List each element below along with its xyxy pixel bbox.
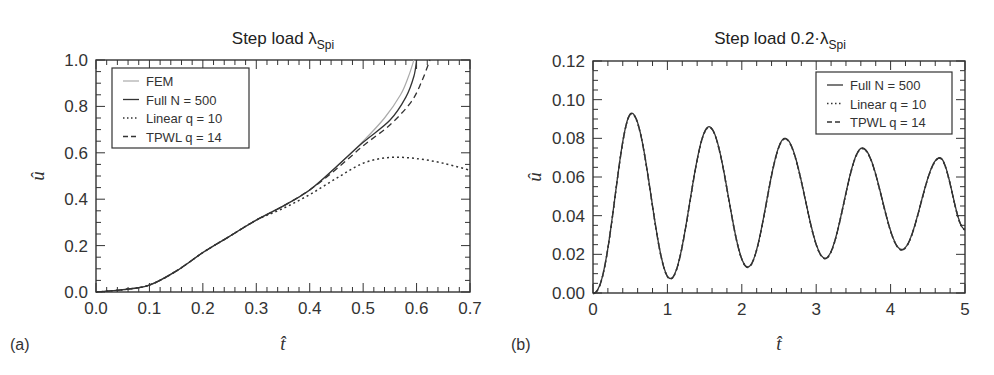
- legend: Full N = 500Linear q = 10TPWL q = 14: [816, 72, 952, 134]
- x-tick-label: 0.5: [351, 299, 375, 318]
- chart-panel-b: Step load 0.2·λSpi0123450.000.020.040.06…: [511, 29, 970, 354]
- y-tick-label: 0.06: [552, 168, 585, 187]
- x-tick-label: 0.2: [191, 299, 215, 318]
- x-axis-label: t̂: [776, 333, 783, 354]
- series-line: [593, 114, 965, 294]
- x-tick-label: 0.3: [244, 299, 268, 318]
- x-tick-label: 0.6: [405, 299, 429, 318]
- y-tick-label: 0.10: [552, 91, 585, 110]
- chart-panel-a: Step load λSpi0.00.10.20.30.40.50.60.70.…: [10, 29, 482, 354]
- y-tick-label: 0.6: [64, 144, 88, 163]
- legend-entry: TPWL q = 14: [850, 115, 926, 130]
- legend: FEMFull N = 500Linear q = 10TPWL q = 14: [112, 68, 249, 148]
- x-tick-label: 0.7: [458, 299, 482, 318]
- legend-entry: Linear q = 10: [850, 97, 926, 112]
- y-tick-label: 0.04: [552, 207, 585, 226]
- panel-label: (b): [511, 336, 531, 353]
- y-tick-label: 0.0: [64, 283, 88, 302]
- legend-entry: Full N = 500: [146, 93, 216, 108]
- x-tick-label: 3: [811, 300, 820, 319]
- curves: [593, 113, 965, 293]
- chart-title: Step load λSpi: [232, 29, 334, 52]
- x-tick-label: 0: [588, 300, 597, 319]
- x-tick-label: 5: [960, 300, 969, 319]
- legend-entry: Full N = 500: [850, 78, 920, 93]
- y-tick-label: 0.8: [64, 97, 88, 116]
- y-tick-label: 1.0: [64, 51, 88, 70]
- x-tick-label: 4: [886, 300, 895, 319]
- y-axis-label: û: [27, 171, 48, 181]
- series-line: [593, 114, 965, 294]
- y-axis-label: û: [524, 172, 545, 182]
- chart-title: Step load 0.2·λSpi: [714, 29, 846, 52]
- x-tick-label: 1: [663, 300, 672, 319]
- figure: Step load λSpi0.00.10.20.30.40.50.60.70.…: [0, 0, 994, 375]
- legend-entry: FEM: [146, 74, 173, 89]
- y-tick-label: 0.00: [552, 284, 585, 303]
- legend-entry: TPWL q = 14: [146, 130, 222, 145]
- x-tick-label: 0.4: [298, 299, 322, 318]
- x-tick-label: 0.1: [138, 299, 162, 318]
- x-tick-label: 2: [737, 300, 746, 319]
- y-tick-label: 0.12: [552, 52, 585, 71]
- panel-label: (a): [10, 336, 30, 353]
- y-tick-label: 0.4: [64, 190, 88, 209]
- series-line: [96, 157, 470, 292]
- y-tick-label: 0.02: [552, 245, 585, 264]
- legend-entry: Linear q = 10: [146, 111, 222, 126]
- y-tick-label: 0.2: [64, 237, 88, 256]
- y-tick-label: 0.08: [552, 129, 585, 148]
- x-axis-label: t̂: [280, 333, 287, 354]
- series-line: [593, 113, 965, 293]
